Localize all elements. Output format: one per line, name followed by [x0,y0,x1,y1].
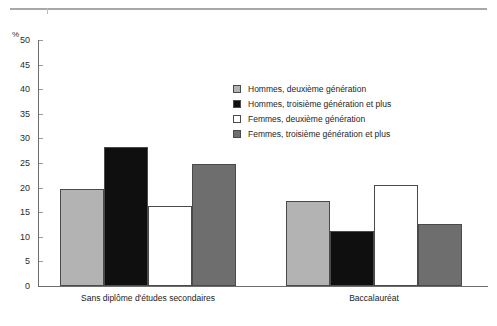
bar [286,201,330,286]
x-axis-group-label: Sans diplôme d'études secondaires [81,293,215,303]
y-axis-tick-mark [39,212,43,213]
y-axis-tick-label: 0 [25,281,30,291]
legend-item-label: Femmes, deuxième génération [248,114,365,124]
legend-item-label: Hommes, troisième génération et plus [248,99,391,109]
header-tick-mark [47,8,48,14]
y-axis-tick-label: 5 [25,256,30,266]
legend-swatch [233,115,241,123]
bar [148,206,192,286]
bar [192,164,236,286]
y-axis-tick-mark [39,188,43,189]
legend-item: Femmes, troisième génération et plus [233,127,391,141]
bar [330,231,374,286]
legend-swatch [233,100,241,108]
legend-item: Hommes, troisième génération et plus [233,97,391,111]
chart-figure: % 50454035302520151050 Sans diplôme d'ét… [0,0,497,326]
legend-swatch [233,130,241,138]
legend-item-label: Femmes, troisième génération et plus [248,129,390,139]
y-axis-tick-mark [39,138,43,139]
y-axis-tick-mark [39,114,43,115]
legend-item-label: Hommes, deuxième génération [248,84,366,94]
y-axis-tick-label: 40 [20,84,30,94]
y-axis-tick-label: 45 [20,60,30,70]
y-axis-tick-label: 50 [20,35,30,45]
header-divider [10,8,487,10]
x-axis-group-label: Baccalauréat [349,293,399,303]
y-axis-tick-label: 25 [20,158,30,168]
y-axis-tick-label: 10 [20,232,30,242]
y-axis-tick-mark [39,65,43,66]
bar [60,189,104,286]
y-axis-tick-label: 20 [20,183,30,193]
y-axis-tick-mark [39,237,43,238]
y-axis-tick-mark [39,89,43,90]
y-axis-tick-label: 30 [20,133,30,143]
chart-legend: Hommes, deuxième générationHommes, trois… [233,82,391,142]
bar [104,147,148,286]
plot-area: 50454035302520151050 Sans diplôme d'étud… [38,40,488,287]
legend-swatch [233,85,241,93]
y-axis-tick-label: 35 [20,109,30,119]
legend-item: Hommes, deuxième génération [233,82,391,96]
legend-item: Femmes, deuxième génération [233,112,391,126]
y-axis-tick-label: 15 [20,207,30,217]
y-axis-unit-label: % [12,30,19,39]
bar [418,224,462,286]
x-axis-line [38,286,488,287]
bar [374,185,418,286]
y-axis-tick-mark [39,40,43,41]
y-axis-tick-mark [39,163,43,164]
y-axis-tick-mark [39,261,43,262]
